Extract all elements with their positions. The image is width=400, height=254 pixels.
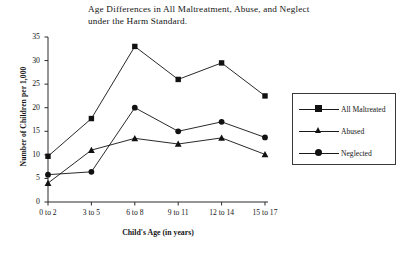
y-tick-label: 20 [20,103,40,112]
data-point [175,128,181,134]
legend-swatch [297,103,341,115]
data-point [262,135,268,141]
data-point [132,105,138,111]
y-tick-label: 35 [20,32,40,41]
y-tick-label: 25 [20,79,40,88]
y-tick-label: 15 [20,126,40,135]
x-tick-label: 12 to 14 [199,208,245,217]
legend-swatch [297,125,341,137]
data-point [132,44,137,49]
data-point [219,60,224,65]
square-marker-icon [315,105,322,112]
legend-item-all-maltreated[interactable]: All Maltreated [293,98,397,120]
data-point [262,151,269,157]
circle-marker-icon [315,149,322,156]
series-abused [45,134,269,185]
x-tick-label: 3 to 5 [68,208,114,217]
x-tick-label: 9 to 11 [155,208,201,217]
legend-label: All Maltreated [341,105,386,114]
legend-item-abused[interactable]: Abused [293,120,397,142]
legend-label: Abused [341,127,364,136]
legend-label: Neglected [341,149,372,158]
y-tick-label: 10 [20,150,40,159]
series-all-maltreated [45,44,267,159]
data-point [176,77,181,82]
x-tick-label: 0 to 2 [25,208,71,217]
data-point [45,180,52,186]
chart-legend: All MaltreatedAbusedNeglected [292,93,396,165]
legend-item-neglected[interactable]: Neglected [293,142,397,164]
y-tick-label: 5 [20,173,40,182]
chart-container: Age Differences in All Maltreatment, Abu… [0,0,400,254]
data-point [45,154,50,159]
triangle-marker-icon [315,127,321,133]
data-point [45,172,51,178]
y-tick-label: 30 [20,56,40,65]
legend-swatch [297,147,341,159]
data-point [131,135,138,141]
x-tick-label: 15 to 17 [242,208,288,217]
data-point [219,119,225,125]
data-point [89,116,94,121]
data-point [262,93,267,98]
data-point [218,134,225,140]
y-tick-label: 0 [20,197,40,206]
data-point [89,169,95,175]
x-tick-label: 6 to 8 [112,208,158,217]
